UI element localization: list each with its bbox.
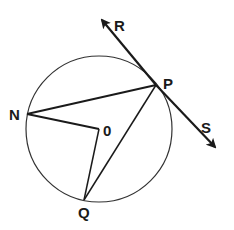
label-Q: Q <box>78 204 90 221</box>
label-S: S <box>201 119 211 136</box>
tangent-line-to-R <box>102 20 156 85</box>
geometry-diagram: R P N 0 S Q <box>0 0 234 230</box>
label-N: N <box>9 106 20 123</box>
label-R: R <box>114 17 125 34</box>
tangent-line-to-S <box>156 85 215 147</box>
label-O: 0 <box>103 122 111 139</box>
label-P: P <box>163 75 173 92</box>
segment-NP <box>27 85 156 114</box>
segment-QP <box>84 85 156 200</box>
segment-NO <box>27 114 99 129</box>
